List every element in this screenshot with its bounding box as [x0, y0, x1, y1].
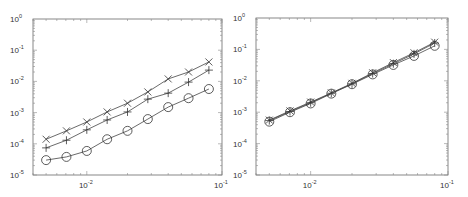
y-tick-exponent: -3: [19, 107, 24, 113]
y-tick-exponent: -1: [19, 44, 24, 50]
y-tick-exponent: -1: [242, 43, 247, 49]
figure: 10010-110-210-310-410-510-210-1 10010-11…: [0, 0, 468, 197]
x-tick-exponent: -1: [449, 179, 454, 185]
x-tick-exponent: -1: [223, 179, 228, 185]
plus-marker-icon: [62, 136, 70, 144]
y-tick-exponent: -3: [242, 106, 247, 112]
plus-marker-icon: [185, 78, 193, 86]
x-marker-icon: [43, 136, 50, 143]
y-tick-exponent: -2: [19, 75, 24, 81]
x-marker-icon: [144, 88, 151, 95]
plus-marker-icon: [42, 144, 50, 152]
plus-marker-icon: [103, 116, 111, 124]
plus-marker-icon: [124, 108, 132, 116]
plus-marker-icon: [144, 95, 152, 103]
left-plot: 10010-110-210-310-410-510-210-1: [10, 13, 228, 190]
x-tick-exponent: -2: [312, 179, 317, 185]
y-tick-exponent: -4: [19, 138, 24, 144]
right-plot: 10010-110-210-310-410-510-210-1: [233, 12, 454, 190]
y-tick-exponent: -5: [242, 169, 247, 175]
x-marker-icon: [104, 108, 111, 115]
plot-frame: [33, 19, 222, 175]
y-tick-exponent: 0: [19, 13, 22, 19]
x-marker-icon: [185, 69, 192, 76]
y-tick-exponent: -4: [242, 138, 247, 144]
x-marker-icon: [63, 127, 70, 134]
plus-marker-icon: [164, 89, 172, 97]
x-marker-icon: [124, 100, 131, 107]
plus-marker-icon: [83, 126, 91, 134]
x-marker-icon: [165, 75, 172, 82]
plus-marker-icon: [431, 39, 439, 47]
y-tick-exponent: 0: [242, 12, 245, 18]
x-marker-icon: [83, 118, 90, 125]
y-tick-exponent: -5: [19, 169, 24, 175]
y-tick-exponent: -2: [242, 75, 247, 81]
x-tick-exponent: -2: [88, 179, 93, 185]
x-marker-icon: [205, 58, 212, 65]
plus-marker-icon: [205, 66, 213, 74]
plot-frame: [256, 18, 448, 175]
